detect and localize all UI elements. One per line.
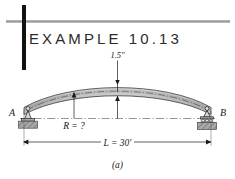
figure-page: EXAMPLE 10.13: [0, 0, 235, 179]
figure-caption: (a): [112, 160, 123, 171]
page-title: EXAMPLE 10.13: [29, 30, 182, 47]
beam-diagram: 1.5″ R = ? A B: [0, 48, 235, 179]
header-rule: [6, 20, 230, 23]
camber-label: 1.5″: [110, 50, 125, 60]
radius-label: R = ?: [62, 121, 85, 131]
support-left-label: A: [8, 107, 16, 118]
support-right-label: B: [220, 107, 226, 118]
support-right-roller: [198, 107, 217, 130]
span-label: L = 30′: [103, 138, 133, 148]
